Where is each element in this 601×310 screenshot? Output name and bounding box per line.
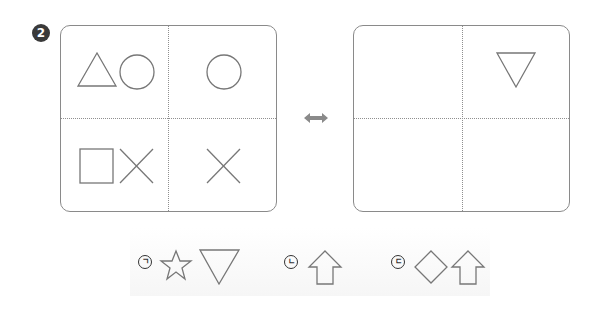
diamond-icon: [415, 251, 447, 283]
arrow-up-icon: [309, 251, 341, 284]
option-label-c: ㄷ: [391, 255, 405, 269]
bidirectional-arrow-icon: [304, 113, 328, 123]
left-panel: [60, 25, 277, 212]
triangle-down-icon: [200, 250, 239, 284]
option-b-shapes[interactable]: [308, 248, 348, 288]
option-c-shapes[interactable]: [414, 248, 494, 288]
triangle-up-icon: [78, 53, 116, 86]
square-icon: [80, 149, 113, 183]
option-label-b: ㄴ: [284, 255, 298, 269]
option-a-shapes[interactable]: [160, 248, 250, 288]
option-label-a: ㄱ: [138, 255, 152, 269]
triangle-down-icon: [497, 53, 535, 87]
problem-number-badge: 2: [32, 24, 50, 42]
arrow-up-icon: [452, 251, 484, 284]
star-icon: [161, 251, 191, 279]
right-panel-shapes: [354, 26, 570, 212]
left-panel-shapes: [61, 26, 277, 212]
circle-icon: [120, 55, 154, 89]
circle-icon: [207, 55, 241, 89]
right-panel: [353, 25, 570, 212]
